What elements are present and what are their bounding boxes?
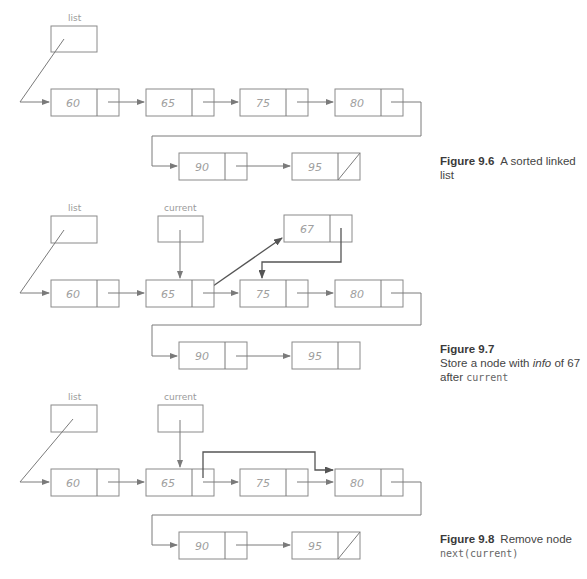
list-pointer-label: list (68, 203, 82, 213)
node-95: 95 (292, 342, 360, 369)
svg-text:95: 95 (308, 161, 322, 174)
svg-text:67: 67 (300, 223, 314, 236)
svg-text:65: 65 (161, 97, 175, 110)
current-pointer-label: current (164, 203, 197, 213)
svg-text:75: 75 (256, 97, 270, 110)
node-95: 95 (292, 532, 360, 559)
svg-text:60: 60 (66, 477, 80, 490)
svg-text:90: 90 (195, 540, 209, 553)
list-pointer-box (51, 405, 97, 432)
figure-9-7-diagram: list current 67 60 65 75 80 (20, 203, 421, 369)
svg-text:90: 90 (195, 161, 209, 174)
figure-label: Figure 9.6 (440, 155, 494, 167)
list-pointer-label: list (68, 392, 82, 402)
svg-text:65: 65 (161, 477, 175, 490)
list-pointer-label: list (68, 13, 82, 23)
svg-text:65: 65 (161, 288, 175, 301)
svg-text:60: 60 (66, 288, 80, 301)
svg-text:75: 75 (256, 288, 270, 301)
figure-9-6-diagram: list 60 65 75 80 90 95 (20, 13, 421, 180)
figure-9-8-diagram: list current 60 65 75 80 90 (20, 392, 421, 559)
svg-text:95: 95 (308, 350, 322, 363)
node-67-inserted: 67 (284, 215, 352, 242)
svg-text:80: 80 (350, 97, 364, 110)
figure-label: Figure 9.8 (440, 533, 494, 545)
figure-label: Figure 9.7 (440, 343, 494, 355)
svg-text:80: 80 (350, 288, 364, 301)
svg-text:60: 60 (66, 97, 80, 110)
current-pointer-label: current (164, 392, 197, 402)
figure-9-6-caption: Figure 9.6A sorted linked list (440, 154, 580, 182)
svg-text:90: 90 (195, 350, 209, 363)
figure-9-7-caption: Figure 9.7 Store a node with info of 67 … (440, 342, 585, 385)
node-95: 95 (292, 153, 360, 180)
figure-9-8-caption: Figure 9.8Remove node next(current) (440, 532, 585, 561)
svg-text:80: 80 (350, 477, 364, 490)
svg-text:75: 75 (256, 477, 270, 490)
linked-list-diagrams: list 60 65 75 80 90 95 (0, 0, 587, 579)
svg-text:95: 95 (308, 540, 322, 553)
